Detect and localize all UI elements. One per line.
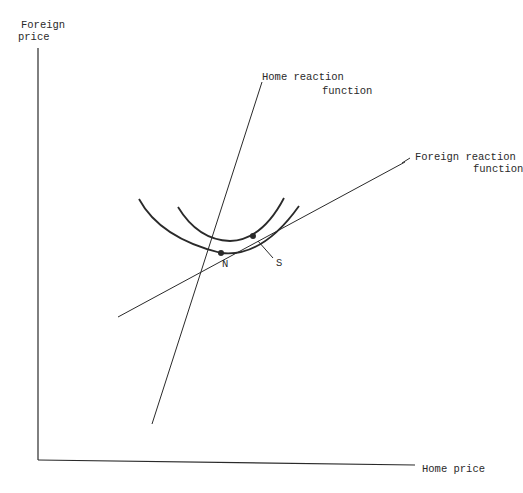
point-n-label: N — [222, 258, 228, 271]
point-s-label: S — [276, 257, 282, 270]
point-n-marker — [218, 250, 224, 256]
x-axis — [38, 460, 415, 465]
iso-profit-curve-inner — [178, 198, 284, 241]
foreign-reaction-line — [118, 162, 405, 317]
home-reaction-line — [152, 82, 262, 424]
foreign-reaction-label-line2: function — [473, 163, 523, 176]
iso-profit-curve-outer — [139, 199, 299, 253]
point-s-leader — [258, 241, 273, 258]
home-reaction-label-line1: Home reaction — [262, 71, 344, 84]
point-s-marker — [250, 233, 256, 239]
home-reaction-label-line2: function — [322, 85, 372, 98]
x-axis-label: Home price — [422, 463, 485, 476]
y-axis-label-line2: price — [18, 31, 50, 44]
foreign-label-leader — [402, 158, 410, 163]
